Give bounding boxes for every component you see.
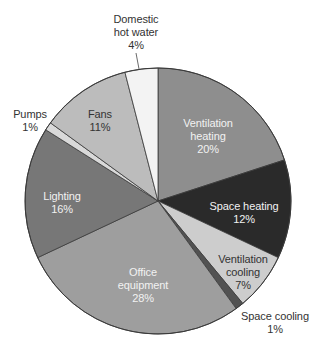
slice-name: cooling — [218, 266, 268, 279]
slice-name: Lighting — [43, 190, 81, 203]
slice-name: equipment — [118, 279, 168, 292]
slice-name: Ventilation — [183, 117, 233, 130]
slice-label-ventilation-cooling: Ventilationcooling7% — [218, 253, 268, 292]
leader-lines — [136, 53, 139, 69]
slice-name: Space heating — [209, 200, 278, 213]
slice-name: Space cooling — [241, 310, 309, 323]
slice-name: Fans — [88, 108, 112, 121]
slice-name: Domestic — [113, 13, 158, 26]
slice-percent: 28% — [118, 292, 168, 305]
slice-percent: 12% — [209, 213, 278, 226]
slice-percent: 11% — [88, 121, 112, 134]
slice-name: hot water — [113, 26, 158, 39]
slice-label-lighting: Lighting16% — [43, 190, 81, 216]
slice-percent: 16% — [43, 203, 81, 216]
slice-percent: 4% — [113, 39, 158, 52]
slice-name: heating — [183, 130, 233, 143]
slice-label-fans: Fans11% — [88, 108, 112, 134]
slice-percent: 1% — [13, 121, 47, 134]
slice-percent: 7% — [218, 279, 268, 292]
slice-label-space-cooling: Space cooling1% — [241, 310, 309, 336]
slice-percent: 1% — [241, 323, 309, 336]
slice-name: Office — [118, 266, 168, 279]
slice-label-domestic-hot-water: Domestichot water4% — [113, 13, 158, 52]
slice-name: Pumps — [13, 108, 47, 121]
slice-percent: 20% — [183, 143, 233, 156]
slice-label-office-equipment: Officeequipment28% — [118, 266, 168, 305]
slice-label-space-heating: Space heating12% — [209, 200, 278, 226]
leader-line — [136, 53, 139, 69]
slice-label-ventilation-heating: Ventilationheating20% — [183, 117, 233, 156]
slice-label-pumps: Pumps1% — [13, 108, 47, 134]
slice-name: Ventilation — [218, 253, 268, 266]
